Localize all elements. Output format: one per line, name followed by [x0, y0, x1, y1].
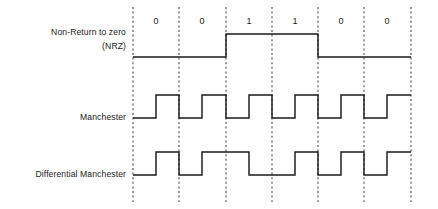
differential-manchester-label: Differential Manchester — [35, 169, 126, 179]
bit-label-1: 0 — [199, 16, 204, 26]
bit-label-5: 0 — [384, 16, 389, 26]
bit-label-3: 1 — [292, 16, 297, 26]
manchester-label: Manchester — [80, 112, 126, 122]
nrz-label-line1: Non-Return to zero — [51, 27, 126, 37]
waveform-canvas: 0 0 1 1 0 0 Non-Return to zero (NRZ) Man… — [0, 0, 438, 209]
nrz-label-line2: (NRZ) — [102, 41, 126, 51]
bit-label-0: 0 — [153, 16, 158, 26]
manchester-waveform — [133, 95, 411, 118]
manchester-row-label: Manchester — [80, 112, 126, 122]
nrz-row-label: Non-Return to zero (NRZ) — [51, 27, 126, 51]
line-coding-diagram: 0 0 1 1 0 0 Non-Return to zero (NRZ) Man… — [0, 0, 438, 209]
differential-manchester-row-label: Differential Manchester — [35, 169, 126, 179]
bit-label-4: 0 — [338, 16, 343, 26]
bit-label-2: 1 — [246, 16, 251, 26]
